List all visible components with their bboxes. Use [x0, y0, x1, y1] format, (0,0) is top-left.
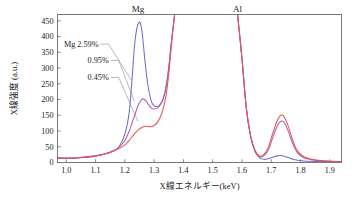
data-curve-1 [58, 15, 342, 162]
xray-spectrum-figure: 050100150200250300350400450 1.01.11.21.3… [0, 0, 355, 198]
x-tick-label: 1.7 [266, 166, 276, 175]
chart-canvas: 050100150200250300350400450 1.01.11.21.3… [0, 0, 355, 198]
data-curve-2 [58, 15, 342, 162]
series-annotation-259: Mg 2.59% [64, 40, 99, 49]
x-tick-label: 1.1 [90, 166, 100, 175]
plot-frame [58, 15, 342, 163]
data-curve-0 [58, 15, 342, 162]
x-tick-label: 1.4 [178, 166, 188, 175]
x-tick-label: 1.9 [325, 166, 335, 175]
annotation-group: MgAlMg 2.59%0.95%0.45% [64, 4, 243, 122]
y-tick-label: 350 [41, 48, 53, 57]
x-tick-label: 1.3 [149, 166, 159, 175]
x-tick-label: 1.0 [61, 166, 71, 175]
x-tick-label: 1.2 [120, 166, 130, 175]
x-axis-title: X線エネルギー(keV) [159, 180, 239, 191]
x-axis-ticks: 1.01.11.21.31.41.51.61.71.81.9 [61, 159, 335, 175]
y-tick-label: 0 [49, 158, 53, 167]
y-tick-label: 50 [45, 143, 53, 152]
y-tick-label: 100 [41, 127, 53, 136]
y-tick-label: 200 [41, 95, 53, 104]
al-peak-label: Al [233, 4, 242, 14]
series-annotation-045: 0.45% [88, 73, 109, 82]
x-tick-label: 1.8 [295, 166, 305, 175]
mg-peak-label: Mg [132, 4, 145, 14]
y-tick-label: 400 [41, 32, 53, 41]
series-annotation-095: 0.95% [88, 56, 109, 65]
y-tick-label: 250 [41, 80, 53, 89]
x-tick-label: 1.5 [208, 166, 218, 175]
data-series-group [58, 15, 342, 162]
y-tick-label: 150 [41, 111, 53, 120]
x-tick-label: 1.6 [237, 166, 247, 175]
y-tick-label: 300 [41, 64, 53, 73]
y-tick-label: 450 [41, 17, 53, 26]
y-axis-title: X線強度 (a.u.) [8, 62, 19, 116]
